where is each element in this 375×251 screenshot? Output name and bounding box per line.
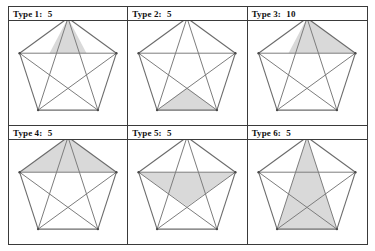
shaded-triangle-type-3 xyxy=(289,18,356,53)
shaded-triangle-type-2 xyxy=(158,88,218,111)
pentagon-vertex-upper-left xyxy=(258,171,260,173)
pentagon-vertex-bottom-right xyxy=(336,227,338,229)
pentagon-vertex-bottom-left xyxy=(276,227,278,229)
pentagon-vertex-upper-left xyxy=(19,171,21,173)
pentagon-vertex-bottom-left xyxy=(276,109,278,111)
pentagon-svg-type-4 xyxy=(15,135,121,239)
cell-count-badge: 5 xyxy=(45,128,53,138)
pentagon-vertex-upper-left xyxy=(138,171,140,173)
pentagon-vertex-upper-right xyxy=(355,171,357,173)
pentagon-svg-type-3 xyxy=(254,16,360,120)
pentagon-vertex-bottom-right xyxy=(97,227,99,229)
pentagon-vertex-upper-left xyxy=(19,52,21,54)
pentagon-vertex-bottom-left xyxy=(156,109,158,111)
cell-label-type-5: Type 5: 5 xyxy=(128,126,246,140)
cell-count-badge: 10 xyxy=(283,9,295,19)
pentagon-diagram-type-6 xyxy=(248,126,367,245)
cell-count-badge: 5 xyxy=(164,9,172,19)
pentagon-diagram-type-1 xyxy=(9,7,127,125)
shaded-triangle-type-4 xyxy=(20,137,117,172)
type-grid: Type 1: 5 Type 2: 5 xyxy=(9,7,367,244)
cell-type-1: Type 1: 5 xyxy=(9,7,128,126)
cell-type-3: Type 3: 10 xyxy=(248,7,367,126)
shaded-triangle-type-6 xyxy=(277,137,337,229)
shaded-triangle-type-5 xyxy=(139,172,236,206)
pentagon-vertex-upper-right xyxy=(115,171,117,173)
pentagon-vertex-upper-left xyxy=(138,52,140,54)
pentagon-vertex-bottom-right xyxy=(336,109,338,111)
cell-type-6: Type 6: 5 xyxy=(248,126,367,245)
figure-container: Type 1: 5 Type 2: 5 xyxy=(8,6,368,245)
pentagon-svg-type-6 xyxy=(254,135,360,239)
cell-label-prefix: Type 2: xyxy=(132,9,161,19)
pentagon-vertex-bottom-left xyxy=(156,227,158,229)
pentagon-vertex-bottom-right xyxy=(97,109,99,111)
cell-label-type-6: Type 6: 5 xyxy=(248,126,367,140)
pentagon-vertex-bottom-right xyxy=(216,227,218,229)
cell-label-prefix: Type 1: xyxy=(13,9,42,19)
cell-label-prefix: Type 4: xyxy=(13,128,42,138)
cell-type-4: Type 4: 5 xyxy=(9,126,128,245)
cell-label-prefix: Type 5: xyxy=(132,128,161,138)
pentagon-svg-type-5 xyxy=(134,135,240,239)
pentagon-vertex-bottom-right xyxy=(216,109,218,111)
cell-label-prefix: Type 3: xyxy=(252,9,281,19)
cell-label-type-4: Type 4: 5 xyxy=(9,126,127,140)
pentagon-diagram-type-5 xyxy=(128,126,246,245)
cell-label-type-1: Type 1: 5 xyxy=(9,7,127,21)
pentagon-diagram-type-2 xyxy=(128,7,246,125)
cell-count-badge: 5 xyxy=(164,128,172,138)
cell-label-type-3: Type 3: 10 xyxy=(248,7,367,21)
pentagon-diagram-type-4 xyxy=(9,126,127,245)
pentagon-svg-type-1 xyxy=(15,16,121,120)
cell-type-2: Type 2: 5 xyxy=(128,7,247,126)
pentagon-vertex-upper-right xyxy=(115,52,117,54)
shaded-triangle-type-1 xyxy=(50,18,87,53)
cell-type-5: Type 5: 5 xyxy=(128,126,247,245)
pentagon-vertex-upper-right xyxy=(235,171,237,173)
pentagon-vertex-upper-right xyxy=(355,52,357,54)
pentagon-vertex-bottom-left xyxy=(37,227,39,229)
pentagon-vertex-upper-left xyxy=(258,52,260,54)
pentagon-svg-type-2 xyxy=(134,16,240,120)
pentagon-diagram-type-3 xyxy=(248,7,367,125)
cell-count-badge: 5 xyxy=(283,128,291,138)
cell-count-badge: 5 xyxy=(45,9,53,19)
cell-label-type-2: Type 2: 5 xyxy=(128,7,246,21)
pentagon-vertex-upper-right xyxy=(235,52,237,54)
pentagon-vertex-bottom-left xyxy=(37,109,39,111)
cell-label-prefix: Type 6: xyxy=(252,128,281,138)
